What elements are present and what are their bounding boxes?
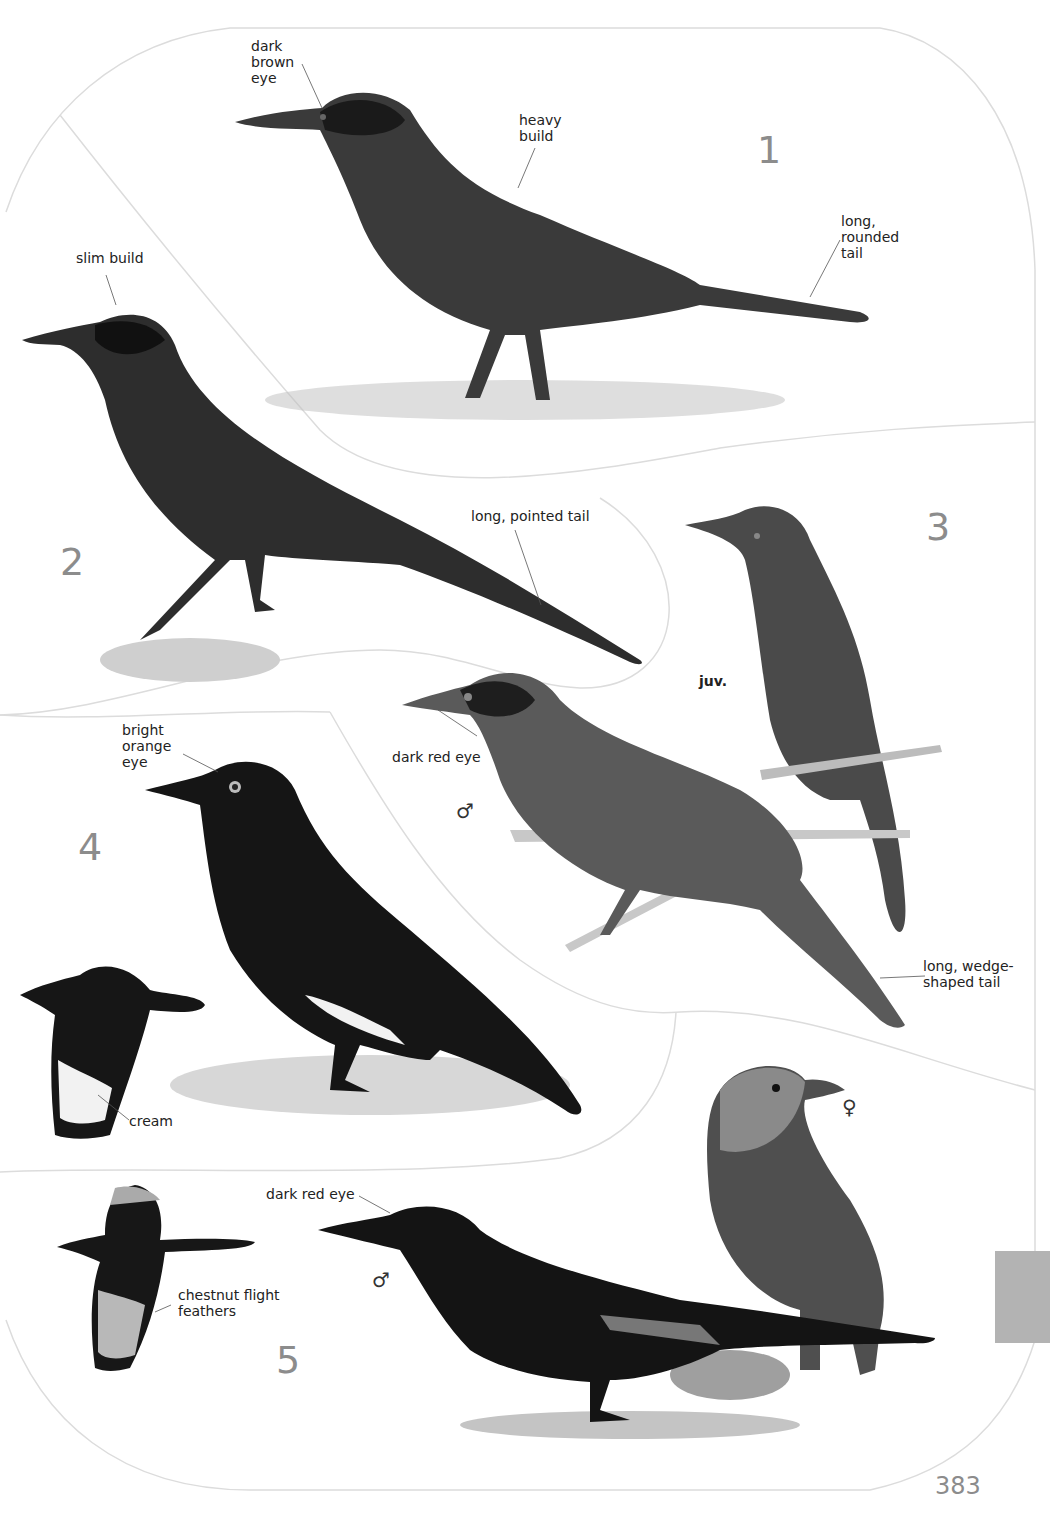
label-species-4-cream: cream (129, 1113, 173, 1129)
male-symbol-species-5: ♂ (372, 1268, 390, 1292)
label-species-2-tail: long, pointed tail (471, 508, 590, 524)
label-species-1-tail: long, rounded tail (841, 213, 899, 261)
species-number-1: 1 (757, 128, 781, 172)
female-symbol-species-5: ♀ (842, 1095, 857, 1119)
label-species-1-build: heavy build (519, 112, 562, 144)
thumb-tab (995, 1251, 1050, 1343)
species-number-3: 3 (926, 505, 950, 549)
label-species-3-juvenile: juv. (699, 673, 727, 689)
label-species-2-build: slim build (76, 250, 144, 266)
label-species-3-eye: dark red eye (392, 749, 481, 765)
species-number-5: 5 (276, 1338, 300, 1382)
label-species-5-wing: chestnut flight feathers (178, 1287, 280, 1319)
label-species-5-eye: dark red eye (266, 1186, 355, 1202)
page-number: 383 (935, 1472, 981, 1500)
species-number-4: 4 (78, 825, 102, 869)
label-species-3-tail: long, wedge- shaped tail (923, 958, 1014, 990)
male-symbol-species-3: ♂ (456, 799, 474, 823)
field-guide-plate: dark brown eye heavy build long, rounded… (0, 0, 1050, 1525)
label-species-4-eye: bright orange eye (122, 722, 171, 770)
species-number-2: 2 (60, 540, 84, 584)
label-species-1-eye: dark brown eye (251, 38, 294, 86)
species-4-illustration (20, 762, 581, 1139)
species-2-illustration (22, 315, 642, 682)
